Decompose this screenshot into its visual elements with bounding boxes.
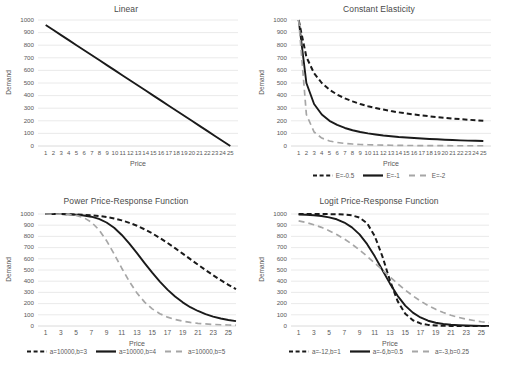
y-axis-tick-label: 100 [4,312,34,318]
y-axis-tick-label: 0 [4,143,34,149]
y-axis-tick-label: 0 [4,323,34,329]
y-axis-tick-label: 900 [257,222,287,228]
legend-swatch [313,172,333,179]
x-axis-tick-label: 25 [476,150,490,156]
legend-swatch [27,348,47,355]
x-axis-tick-label: 25 [474,330,488,337]
y-axis-tick-label: 0 [257,143,287,149]
x-axis-tick-label: 7 [84,330,98,337]
chart-panel-linear: Linear 010020030040050060070080090010001… [0,4,252,190]
x-axis-tick-label: 3 [307,330,321,337]
legend-swatch [96,348,116,355]
y-axis-tick-label: 100 [4,130,34,136]
y-axis-title: Demand [258,248,265,292]
y-axis-tick-label: 900 [4,222,34,228]
chart-panel-power: Power Price-Response Function 0100200300… [0,196,252,379]
y-axis-tick-label: 300 [257,105,287,111]
legend-label: a=-12,b=1 [312,348,341,355]
x-axis-title: Price [38,340,236,347]
legend-item[interactable]: E=-1 [363,172,399,179]
y-axis-tick-label: 800 [257,42,287,48]
legend-item[interactable]: a=10000,b=5 [165,348,225,355]
x-axis-tick-label: 1 [292,330,306,337]
x-axis-tick-label: 7 [337,330,351,337]
y-axis-tick-label: 800 [4,233,34,239]
legend-item[interactable]: a=-12,b=1 [289,348,341,355]
plot-area: 0100200300400500600700800900100013579111… [253,196,505,366]
y-axis-tick-label: 200 [257,118,287,124]
series-line [299,20,484,141]
legend-label: a=-3,b=0.25 [435,348,469,355]
legend-swatch [412,348,432,355]
legend-label: E=-2 [432,172,445,179]
legend-item[interactable]: a=10000,b=3 [27,348,87,355]
y-axis-tick-label: 200 [4,118,34,124]
chart-panel-logit: Logit Price-Response Function 0100200300… [253,196,505,379]
y-axis-tick-label: 100 [257,130,287,136]
x-axis-tick-label: 19 [429,330,443,337]
y-axis-tick-label: 100 [257,312,287,318]
legend-label: a=-6,b=0.5 [373,348,403,355]
legend-label: a=10000,b=4 [119,348,156,355]
y-axis-tick-label: 1000 [4,211,34,217]
x-axis-tick-label: 15 [145,330,159,337]
x-axis-tick-label: 3 [54,330,68,337]
plot-area: 0100200300400500600700800900100012345678… [0,4,252,174]
plot-area: 0100200300400500600700800900100013579111… [0,196,252,366]
chart-panel-constant-elasticity: Constant Elasticity 01002003004005006007… [253,4,505,190]
legend-label: E=-1 [386,172,399,179]
legend-swatch [289,348,309,355]
legend-swatch [350,348,370,355]
x-axis-tick-label: 9 [100,330,114,337]
series-line [46,25,231,146]
x-axis-tick-label: 23 [206,330,220,337]
legend-swatch [409,172,429,179]
series-line [46,214,236,325]
series-line [46,214,236,321]
x-axis-title: Price [291,340,489,347]
legend-label: a=10000,b=5 [188,348,225,355]
y-axis-tick-label: 300 [4,105,34,111]
x-axis-tick-label: 17 [160,330,174,337]
series-line [299,221,489,323]
x-axis-title: Price [38,160,238,167]
chart-legend: a=10000,b=3a=10000,b=4a=10000,b=5 [0,348,252,355]
legend-item[interactable]: E=-2 [409,172,445,179]
legend-label: a=10000,b=3 [50,348,87,355]
x-axis-tick-label: 15 [398,330,412,337]
x-axis-tick-label: 23 [459,330,473,337]
y-axis-title: Demand [5,61,12,105]
y-axis-tick-label: 0 [257,323,287,329]
x-axis-tick-label: 25 [221,330,235,337]
plot-svg [253,4,505,174]
legend-item[interactable]: a=10000,b=4 [96,348,156,355]
legend-label: E=-0.5 [336,172,355,179]
y-axis-tick-label: 900 [257,29,287,35]
legend-item[interactable]: a=-6,b=0.5 [350,348,403,355]
plot-svg [0,4,252,174]
x-axis-tick-label: 1 [39,330,53,337]
x-axis-tick-label: 13 [130,330,144,337]
figure-grid: Linear 010020030040050060070080090010001… [0,0,505,379]
x-axis-tick-label: 21 [444,330,458,337]
x-axis-tick-label: 11 [115,330,129,337]
x-axis-tick-label: 11 [368,330,382,337]
y-axis-tick-label: 200 [257,300,287,306]
y-axis-title: Demand [5,248,12,292]
legend-swatch [165,348,185,355]
x-axis-tick-label: 9 [353,330,367,337]
y-axis-tick-label: 900 [4,29,34,35]
y-axis-tick-label: 200 [4,300,34,306]
y-axis-tick-label: 800 [4,42,34,48]
y-axis-tick-label: 800 [257,233,287,239]
x-axis-tick-label: 25 [223,150,237,156]
x-axis-tick-label: 21 [191,330,205,337]
x-axis-tick-label: 5 [322,330,336,337]
legend-item[interactable]: a=-3,b=0.25 [412,348,469,355]
legend-item[interactable]: E=-0.5 [313,172,355,179]
legend-swatch [363,172,383,179]
x-axis-tick-label: 5 [69,330,83,337]
chart-legend: a=-12,b=1a=-6,b=0.5a=-3,b=0.25 [253,348,505,355]
y-axis-tick-label: 1000 [257,211,287,217]
y-axis-tick-label: 1000 [4,17,34,23]
